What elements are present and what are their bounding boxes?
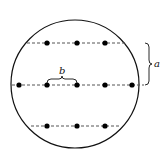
label-b: b bbox=[59, 65, 65, 76]
dashed-row-middle bbox=[12, 82, 144, 87]
dot bbox=[102, 40, 107, 45]
dot bbox=[44, 82, 49, 87]
brace-a bbox=[145, 43, 152, 85]
dashed-row-top bbox=[27, 40, 125, 45]
dot bbox=[44, 123, 49, 128]
dot bbox=[74, 40, 79, 45]
dot bbox=[102, 123, 107, 128]
brace-b bbox=[47, 76, 77, 83]
dot bbox=[102, 82, 107, 87]
lattice-diagram: b a bbox=[0, 0, 167, 160]
dot bbox=[16, 82, 21, 87]
dot bbox=[74, 123, 79, 128]
label-a: a bbox=[154, 58, 160, 69]
dot bbox=[44, 40, 49, 45]
dot bbox=[129, 82, 134, 87]
dot bbox=[74, 82, 79, 87]
dashed-row-bottom bbox=[31, 123, 120, 128]
